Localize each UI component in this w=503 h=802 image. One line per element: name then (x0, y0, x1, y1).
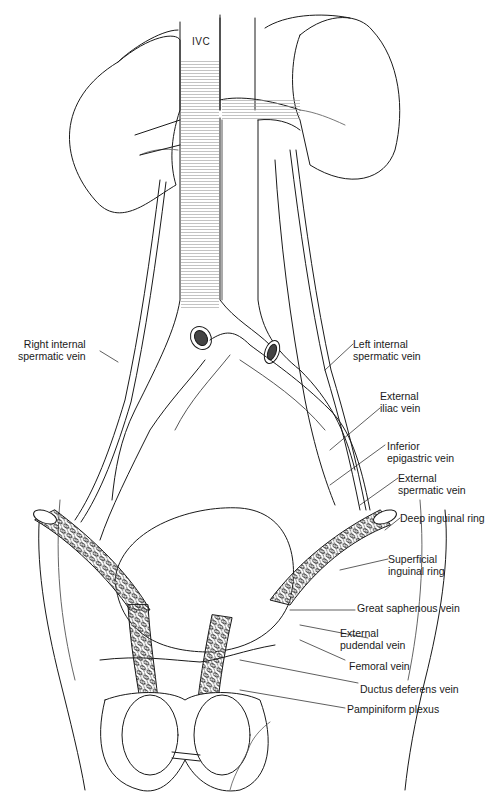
label-great-saphenous-vein: Great saphenous vein (357, 602, 460, 614)
ivc-label: IVC (192, 36, 210, 48)
label-pampiniform-plexus: Pampiniform plexus (347, 703, 439, 715)
label-external-spermatic-vein: External spermatic vein (398, 472, 466, 496)
scrotum (101, 693, 269, 791)
label-superficial-inguinal-ring: Superficial inguinal ring (388, 553, 445, 577)
left-kidney (265, 15, 400, 179)
label-ductus-deferens-vein: Ductus deferens vein (360, 683, 459, 695)
label-right-internal-spermatic-vein: Right internal spermatic vein (18, 338, 86, 362)
label-left-internal-spermatic-vein: Left internal spermatic vein (353, 338, 421, 362)
label-deep-inguinal-ring: Deep inguinal ring (400, 512, 485, 524)
label-external-pudendal-vein: External pudendal vein (340, 627, 405, 651)
label-external-iliac-vein: External iliac vein (380, 390, 420, 414)
right-kidney (69, 30, 180, 213)
line-art (0, 0, 503, 802)
venous-anatomy-illustration: IVC Right internal spermatic vein Left i… (0, 0, 503, 802)
label-femoral-vein: Femoral vein (349, 660, 410, 672)
label-inferior-epigastric-vein: Inferior epigastric vein (387, 440, 454, 464)
